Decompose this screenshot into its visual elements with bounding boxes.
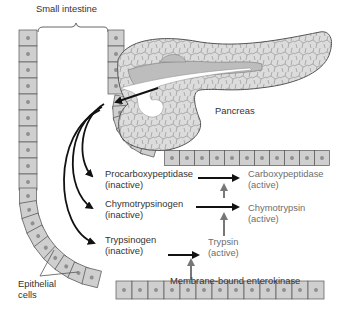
epithelial-cell	[315, 151, 330, 166]
epithelial-cell	[19, 78, 37, 94]
enzyme-name: Chymotrypsin	[248, 202, 305, 213]
secretion-arrows	[64, 104, 104, 243]
zymogen-name: Chymotrypsinogen	[105, 198, 183, 209]
epithelial-cell	[19, 30, 37, 46]
trypsin-label: Trypsin (active)	[208, 236, 239, 258]
procarboxypeptidase-label: Procarboxypeptidase (inactive)	[105, 168, 193, 190]
epithelial-cell	[255, 151, 270, 166]
epithelial-cell	[19, 174, 37, 190]
epithelial-label-line2: cells	[18, 289, 56, 300]
epithelial-cell	[132, 281, 148, 299]
epithelial-cell	[148, 281, 164, 299]
small-intestine-bracket	[38, 23, 108, 32]
epithelial-cell	[108, 30, 124, 46]
epithelial-cell	[165, 151, 180, 166]
epithelial-cell	[308, 281, 324, 299]
enzyme-state: (active)	[248, 179, 324, 190]
epithelial-cells-label: Epithelial cells	[18, 278, 56, 300]
epithelial-cell	[225, 151, 240, 166]
epithelial-cell	[210, 151, 225, 166]
enzyme-state: (active)	[248, 213, 305, 224]
enzyme-name: Carboxypeptidase	[248, 168, 324, 179]
small-intestine-label: Small intestine	[36, 3, 97, 14]
epithelial-cell	[195, 151, 210, 166]
trypsinogen-label: Trypsinogen (inactive)	[105, 234, 156, 256]
chymotrypsinogen-label: Chymotrypsinogen (inactive)	[105, 198, 183, 220]
enzyme-state: (active)	[208, 247, 239, 258]
epithelial-cell	[19, 94, 37, 110]
zymogen-name: Trypsinogen	[105, 234, 156, 245]
pancreas-label: Pancreas	[215, 105, 255, 116]
diagram-svg	[0, 0, 340, 316]
chymotrypsin-label: Chymotrypsin (active)	[248, 202, 305, 224]
epithelial-cell	[19, 142, 37, 158]
epithelial-cell	[19, 126, 37, 142]
epithelial-cell	[19, 158, 37, 174]
epithelial-cell	[285, 151, 300, 166]
epithelial-cell	[19, 110, 37, 126]
zymogen-state: (inactive)	[105, 245, 156, 256]
epithelial-label-line1: Epithelial	[18, 278, 56, 289]
epithelial-cell	[116, 281, 132, 299]
epithelial-cell	[300, 151, 315, 166]
epithelial-cell	[180, 151, 195, 166]
epithelial-cell	[270, 151, 285, 166]
enzyme-name: Trypsin	[208, 236, 239, 247]
epithelial-cell	[19, 62, 37, 78]
epithelial-cell	[240, 151, 255, 166]
zymogen-state: (inactive)	[105, 209, 183, 220]
zymogen-state: (inactive)	[105, 179, 193, 190]
carboxypeptidase-label: Carboxypeptidase (active)	[248, 168, 324, 190]
enterokinase-label: Membrane-bound enterokinase	[170, 275, 300, 286]
zymogen-name: Procarboxypeptidase	[105, 168, 193, 179]
epithelial-cell	[19, 46, 37, 62]
gray-activation-arrows	[191, 185, 224, 280]
diagram-canvas: Small intestine Pancreas Procarboxypepti…	[0, 0, 340, 316]
